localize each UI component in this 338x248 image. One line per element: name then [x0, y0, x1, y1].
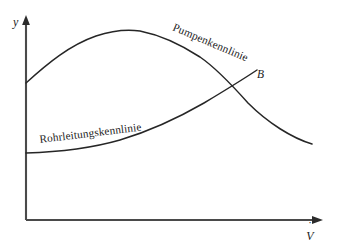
diagram-canvas: Pumpenkennlinie Rohrleitungskennlinie B … — [0, 0, 338, 248]
operating-point-label: B — [257, 68, 264, 80]
y-axis-label: y — [12, 15, 19, 29]
x-axis-label: V — [306, 229, 315, 243]
pump-curve-label: Pumpenkennlinie — [171, 21, 250, 64]
pipe-curve-label: Rohrleitungskennlinie — [39, 121, 142, 145]
y-axis-arrowhead — [22, 15, 30, 25]
x-axis-arrowhead — [312, 216, 323, 224]
pump-characteristic-diagram: Pumpenkennlinie Rohrleitungskennlinie B … — [0, 0, 338, 248]
pump-characteristic-curve — [26, 30, 312, 144]
